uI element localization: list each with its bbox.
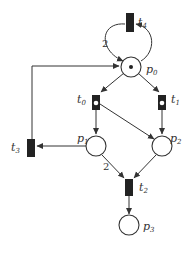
arc-t0-p2 [100, 104, 154, 139]
label-p1: p1 [77, 132, 89, 146]
label-p3: p3 [143, 220, 155, 234]
place-p1 [86, 136, 106, 156]
label-p0: p0 [146, 63, 158, 77]
label-t0: t0 [77, 93, 86, 107]
transition-t2 [125, 179, 133, 196]
label-t4: t4 [138, 16, 147, 30]
transition-t4 [126, 13, 134, 32]
place-p3 [119, 215, 139, 235]
label-t1: t1 [171, 93, 180, 107]
arc-p2-t2 [134, 155, 156, 178]
label-t2: t2 [139, 181, 148, 195]
enabled-marker-t0 [94, 101, 99, 106]
arc-t3-p0 [32, 66, 119, 146]
weight-p1-t2: 2 [103, 161, 109, 172]
label-p2: p2 [170, 132, 182, 146]
token-p0 [129, 65, 133, 69]
place-p2 [152, 136, 172, 156]
label-t3: t3 [11, 141, 20, 155]
weight-t4-p0: 2 [102, 38, 108, 49]
petri-net-diagram: t4 p0 t0 t1 p1 p2 t3 t2 p3 2 2 [0, 0, 190, 253]
enabled-marker-t1 [160, 101, 165, 106]
transition-t3 [27, 139, 35, 157]
arc-p0-t0 [101, 73, 124, 92]
